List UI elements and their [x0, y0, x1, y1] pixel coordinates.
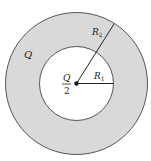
center-charge-denominator: 2 [64, 86, 70, 96]
center-charge-numerator: Q [63, 73, 71, 83]
charged-shell-diagram: Q R2 R1 Q 2 [0, 0, 151, 161]
shell-charge-label: Q [24, 49, 32, 60]
center-point-charge [74, 81, 78, 85]
